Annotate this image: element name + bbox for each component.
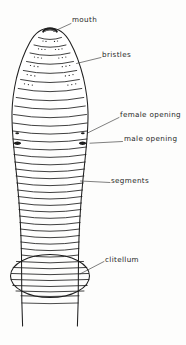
label-mouth: mouth <box>72 16 97 23</box>
bristle-dot <box>37 57 38 58</box>
bristle-dot <box>34 56 35 57</box>
segment-line <box>13 286 87 287</box>
bristle-dot <box>58 57 59 58</box>
bristle-dot <box>41 49 42 50</box>
label-bristles: bristles <box>102 51 131 58</box>
segment-line <box>11 280 89 281</box>
bristle-dot <box>65 75 66 76</box>
bristle-dot <box>69 65 70 66</box>
bristle-dot <box>30 75 31 76</box>
label-female-opening: female opening <box>120 111 181 118</box>
segment-line <box>16 291 84 292</box>
label-segments: segments <box>111 177 149 184</box>
bristle-dot <box>45 41 46 42</box>
bristle-dot <box>28 84 29 85</box>
bristle-dot <box>34 75 35 76</box>
segment-line <box>11 274 88 275</box>
female-opening-left <box>15 132 19 134</box>
label-male-opening: male opening <box>124 135 177 142</box>
leader-line-mouth <box>54 24 72 32</box>
bristle-dot <box>38 48 39 49</box>
bristle-dot <box>61 48 62 49</box>
leader-line-segments <box>81 181 111 183</box>
segment-line <box>22 303 78 304</box>
bristle-dot <box>30 65 31 66</box>
bristle-dot <box>57 40 58 41</box>
bristle-dot <box>54 41 55 42</box>
bristle-dot <box>65 66 66 67</box>
leader-line-bristles <box>77 58 102 64</box>
female-opening-right <box>81 132 85 134</box>
bristle-dot <box>44 49 45 50</box>
bristle-dot <box>58 49 59 50</box>
bristle-dot <box>34 66 35 67</box>
label-clitellum: clitellum <box>105 256 139 263</box>
bristle-dot <box>27 74 28 75</box>
bristle-dot <box>62 66 63 67</box>
earthworm-anatomy-figure <box>0 0 186 345</box>
bristle-dot <box>37 66 38 67</box>
bristle-dot <box>71 84 72 85</box>
bristle-dot <box>72 74 73 75</box>
bristle-dot <box>55 49 56 50</box>
bristle-dot <box>24 83 25 84</box>
bristle-dot <box>65 56 66 57</box>
segment-line <box>21 296 79 297</box>
bristle-dot <box>42 40 43 41</box>
bristle-dot <box>62 57 63 58</box>
bristle-dot <box>75 83 76 84</box>
bristle-dot <box>32 84 33 85</box>
segment-line <box>21 255 78 257</box>
bristle-dot <box>69 75 70 76</box>
segment-line <box>21 249 79 251</box>
bristle-dot <box>41 57 42 58</box>
bristle-dot <box>67 84 68 85</box>
leader-line-male-opening <box>90 142 123 144</box>
leader-line-female-opening <box>88 118 120 134</box>
